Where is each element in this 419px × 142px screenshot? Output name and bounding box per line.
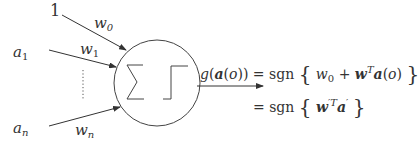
weight-wn-label: wn — [75, 123, 94, 140]
weight-w1-label: w1 — [80, 42, 99, 59]
neuron-circle — [114, 40, 200, 126]
output-equation-line1: g(a(o)) = sgn { w0 + wTa(o) } — [200, 64, 419, 84]
sum-icon — [127, 65, 144, 99]
input-a1-label: a1 — [13, 45, 28, 62]
weight-w0-label: w0 — [94, 16, 113, 33]
bias-input-label: 1 — [50, 3, 60, 19]
output-equation-line2: = sgn { w′Ta′ } — [253, 97, 366, 117]
step-function-icon — [163, 66, 188, 99]
input-an-label: an — [13, 121, 28, 138]
